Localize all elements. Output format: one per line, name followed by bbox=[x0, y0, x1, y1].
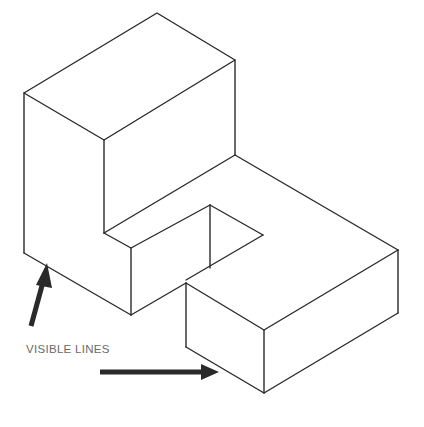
base-edges bbox=[24, 155, 398, 315]
arrow-right-icon bbox=[100, 364, 219, 380]
notch-edges bbox=[131, 205, 263, 315]
tall-block-edges bbox=[24, 13, 235, 253]
isometric-drawing bbox=[0, 0, 424, 427]
visible-lines-label: VISIBLE LINES bbox=[26, 343, 110, 355]
arrow-up-icon bbox=[31, 263, 52, 326]
